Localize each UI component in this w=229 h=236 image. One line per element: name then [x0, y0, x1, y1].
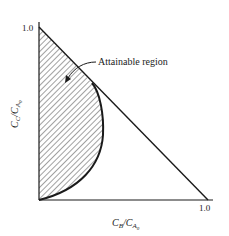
svg-text:CB/CA0: CB/CA0 [112, 217, 140, 231]
y-tick-label: 1.0 [22, 23, 34, 33]
attainable-region-diagram: Attainable region 1.0 1.0 CB/CA0 CC/CA0 [0, 0, 229, 236]
x-tick-label: 1.0 [199, 203, 211, 213]
x-axis-label: CB/CA0 [112, 217, 140, 231]
annotation-label: Attainable region [98, 56, 168, 67]
attainable-region-hatch [39, 27, 109, 202]
svg-text:CC/CA0: CC/CA0 [9, 100, 23, 128]
y-axis-label: CC/CA0 [9, 100, 23, 128]
